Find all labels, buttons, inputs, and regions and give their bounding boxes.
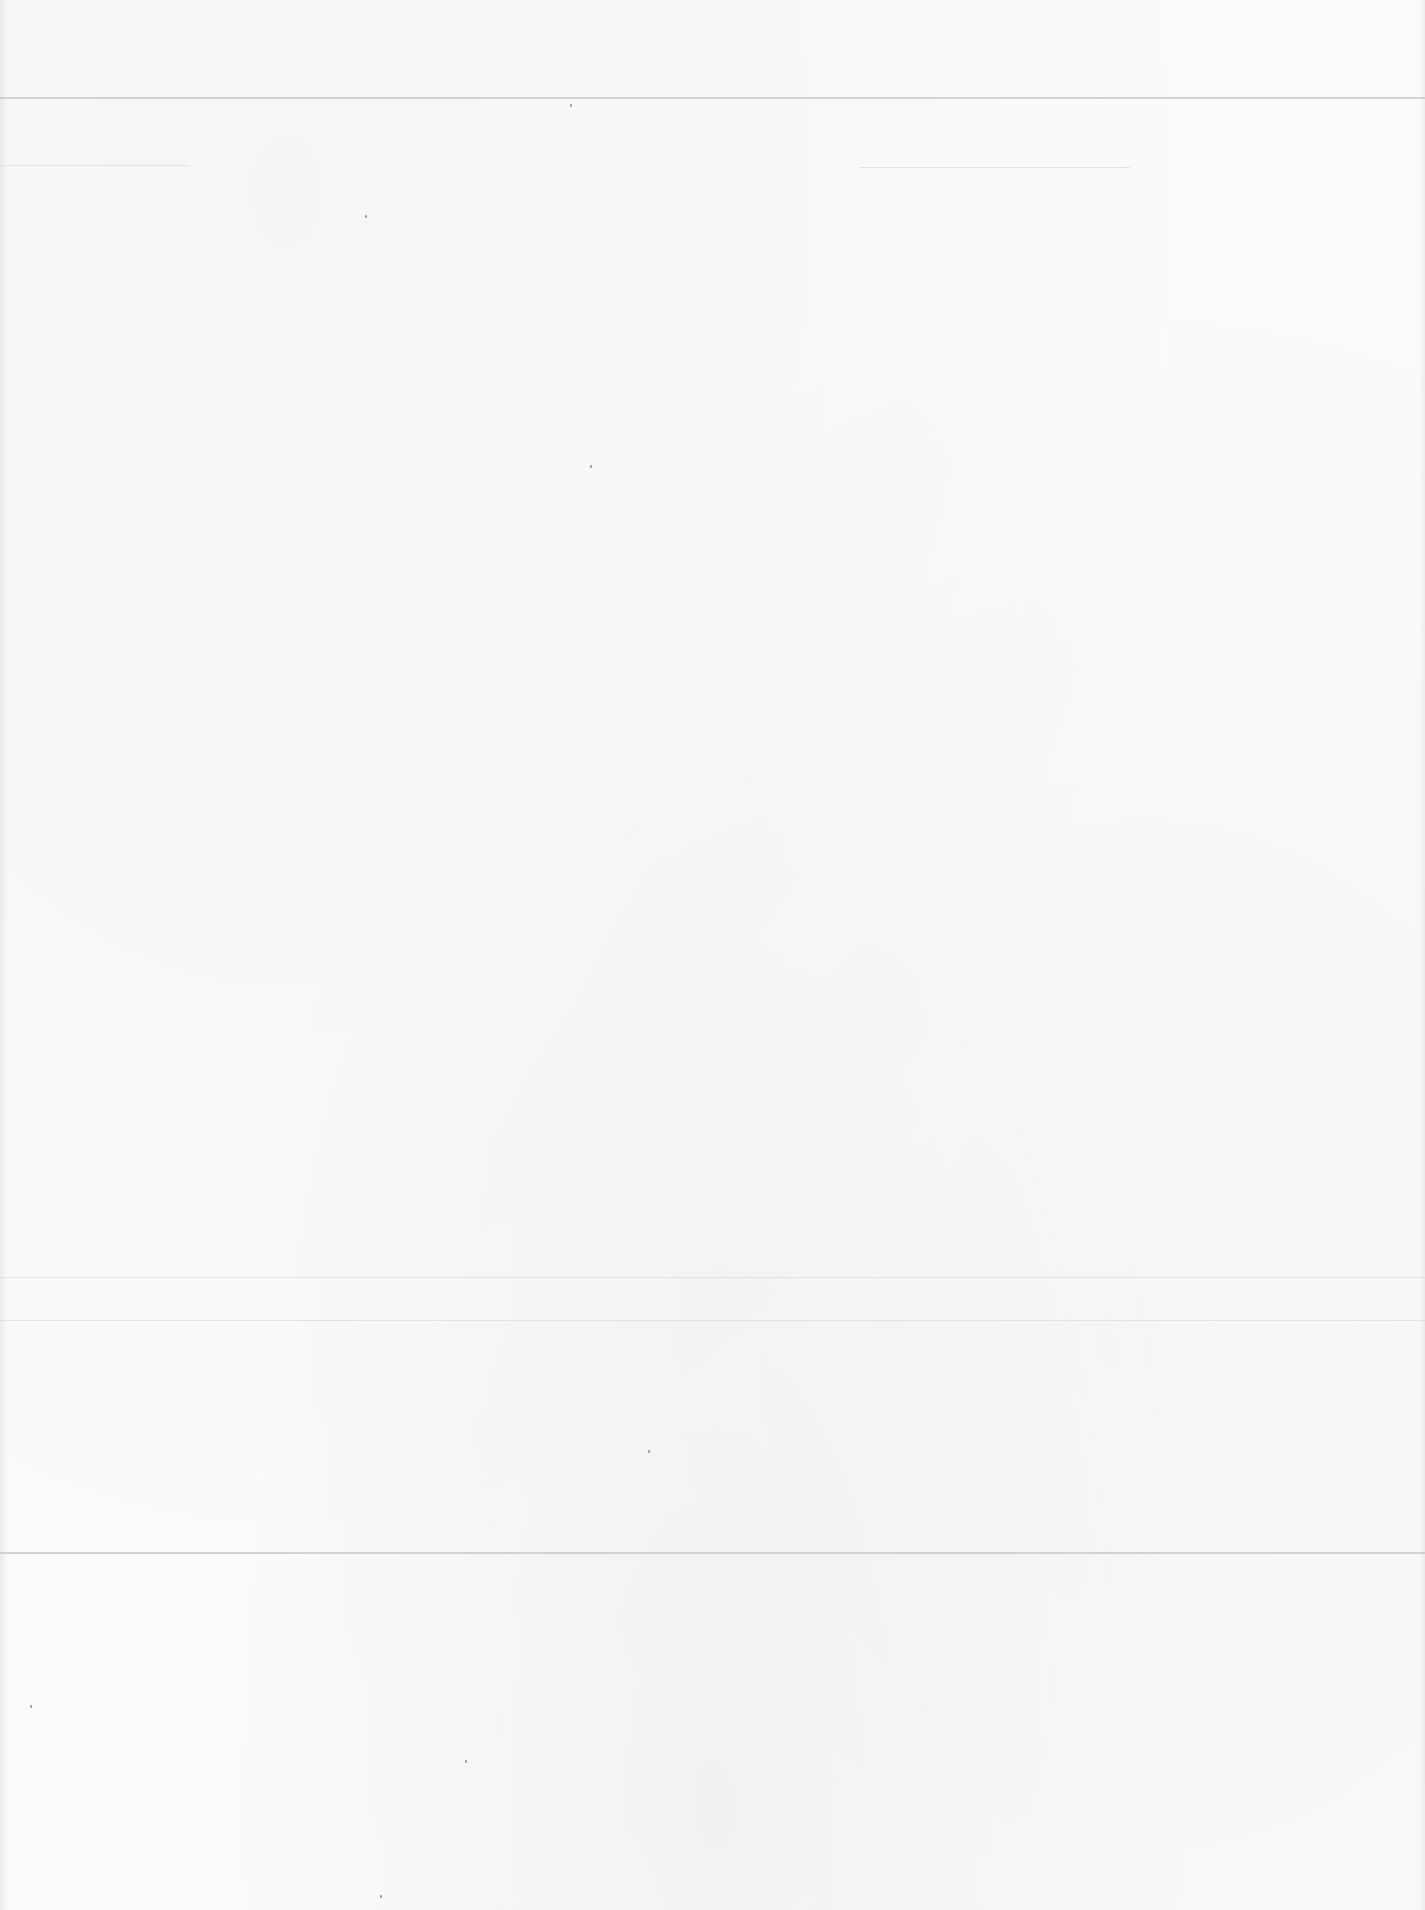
horizontal-rule-bottom [0,1552,1425,1554]
scan-speck [570,104,572,107]
scan-speck [648,1450,650,1453]
horizontal-rule-lower-2 [0,1320,1425,1321]
page-edge-shadow-right [1419,0,1425,1910]
page-edge-shadow-left [0,0,8,1910]
scan-speck [365,215,367,218]
blank-document-page [0,0,1425,1910]
horizontal-rule-partial-left [0,165,190,166]
horizontal-rule-partial-right [860,167,1130,168]
horizontal-rule-top [0,97,1425,99]
horizontal-rule-lower-1 [0,1277,1425,1278]
scan-speck [590,465,592,468]
scan-speck [380,1895,382,1898]
scan-speck [30,1705,32,1708]
scan-speck [465,1760,467,1763]
